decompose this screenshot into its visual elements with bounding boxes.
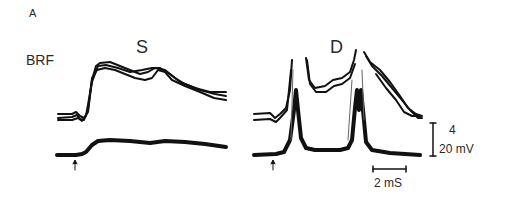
d-lower-trace	[254, 70, 420, 155]
d-upper-traces	[254, 50, 422, 122]
vertical-scale-bar	[430, 123, 436, 156]
d-stimulus-arrow-icon	[271, 160, 275, 170]
s-upper-traces	[58, 62, 226, 121]
s-stimulus-arrow-icon	[73, 160, 77, 170]
horizontal-scale-bar	[373, 166, 406, 172]
s-lower-trace	[57, 140, 226, 155]
traces-plot	[0, 0, 505, 205]
